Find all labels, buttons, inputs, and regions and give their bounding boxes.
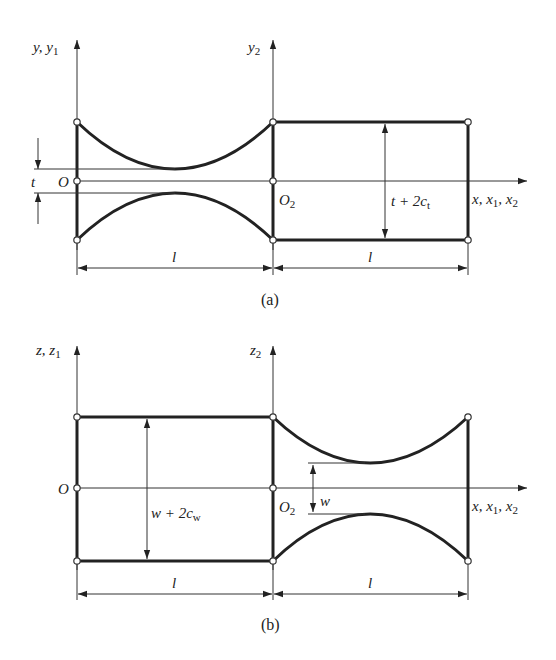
node	[270, 178, 276, 184]
node	[465, 119, 471, 125]
node	[74, 119, 80, 125]
upper-parabolic-edge-b	[273, 417, 468, 463]
x-axis-label: x, x1, x2	[471, 191, 518, 209]
node	[270, 414, 276, 420]
rectangular-segment-b	[77, 417, 273, 561]
width-label: w	[320, 493, 330, 509]
node	[270, 485, 276, 491]
panel-b: z, z1 z2 O O2 x, x1, x2 w w + 2cw l l (b…	[35, 342, 527, 634]
rect-width-label: w + 2cw	[151, 505, 201, 523]
beam-geometry-diagram: y, y1 y2 O O2 x, x1, x2 t t + 2ct l l (a…	[0, 0, 556, 660]
node	[74, 558, 80, 564]
node	[465, 558, 471, 564]
origin2-label-b: O2	[279, 499, 295, 517]
lower-parabolic-edge	[77, 193, 273, 240]
length-label-left-b: l	[172, 575, 176, 591]
node	[465, 414, 471, 420]
upper-parabolic-edge	[77, 122, 273, 169]
origin2-label: O2	[279, 192, 295, 210]
origin-label: O	[58, 174, 69, 190]
caption-b: (b)	[261, 616, 280, 634]
node	[74, 178, 80, 184]
length-label-left: l	[172, 249, 176, 265]
node	[74, 485, 80, 491]
x-axis-label-b: x, x1, x2	[471, 498, 518, 516]
node	[465, 237, 471, 243]
y2-axis-label: y2	[246, 39, 260, 57]
panel-a: y, y1 y2 O O2 x, x1, x2 t t + 2ct l l (a…	[31, 39, 527, 309]
length-label-right-b: l	[368, 575, 372, 591]
thickness-label: t	[31, 174, 36, 190]
caption-a: (a)	[261, 291, 279, 309]
node	[74, 237, 80, 243]
node	[270, 237, 276, 243]
node	[74, 414, 80, 420]
lower-parabolic-edge-b	[273, 514, 468, 561]
length-label-right: l	[368, 249, 372, 265]
y-axis-label: y, y1	[31, 39, 59, 57]
origin-label-b: O	[58, 481, 69, 497]
z-axis-label: z, z1	[35, 342, 61, 360]
node	[270, 119, 276, 125]
z2-axis-label: z2	[249, 342, 261, 360]
node	[270, 558, 276, 564]
rect-height-label: t + 2ct	[391, 193, 430, 211]
